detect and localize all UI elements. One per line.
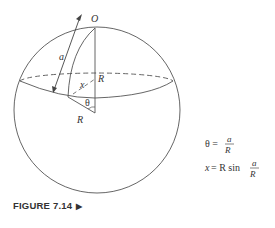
label-arc-a: a (59, 51, 64, 62)
eq2-lhs-rest: = R sin (211, 162, 240, 173)
sphere-diagram: O a R x θ R θ = a R x = R sin a R (0, 0, 275, 228)
label-theta: θ (85, 97, 90, 108)
caption-arrow-icon: ▶ (76, 202, 82, 211)
eq2-lhs-var: x (204, 162, 210, 173)
equator-front (20, 81, 173, 98)
label-radius-vertical: R (97, 73, 104, 84)
eq1-numerator: a (227, 134, 232, 144)
eq2-numerator: a (252, 158, 257, 168)
eq1-denominator: R (224, 145, 231, 155)
arrowhead-up-icon (76, 14, 82, 21)
equator-back-dashed (20, 73, 173, 81)
eq1-lhs: θ = (205, 138, 218, 149)
sphere-outline (14, 27, 180, 193)
figure-caption: FIGURE 7.14▶ (13, 200, 82, 211)
label-radius-bottom: R (76, 114, 83, 125)
eq2-denominator: R (249, 169, 256, 179)
label-chord-x: x (79, 79, 85, 90)
bottom-radius (68, 97, 95, 113)
figure-caption-text: FIGURE 7.14 (13, 200, 72, 211)
arc-length-arrow (54, 17, 80, 90)
label-origin: O (91, 13, 98, 24)
